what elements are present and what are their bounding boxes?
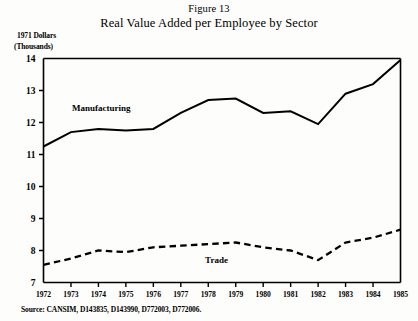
x-tick-label: 1975 <box>118 290 133 299</box>
x-tick-label: 1979 <box>228 290 243 299</box>
y-tick-label: 13 <box>26 86 36 96</box>
y-axis-ticks: 1413121110987 <box>26 54 44 288</box>
figure-container: Figure 13 Real Value Added per Employee … <box>0 0 418 321</box>
series-labels-group: ManufacturingTrade <box>72 103 228 264</box>
y-tick-label: 14 <box>26 54 36 64</box>
x-tick-label: 1973 <box>63 290 78 299</box>
x-tick-label: 1982 <box>311 290 326 299</box>
x-tick-label: 1983 <box>338 290 353 299</box>
y-tick-label: 12 <box>26 118 36 128</box>
x-tick-label: 1984 <box>365 290 380 299</box>
x-tick-label: 1978 <box>201 290 216 299</box>
line-chart-plot: 1413121110987 19721973197419751976197719… <box>0 0 418 321</box>
y-tick-label: 11 <box>27 150 36 160</box>
chart-axes <box>44 59 401 283</box>
x-tick-label: 1974 <box>91 290 106 299</box>
x-tick-label: 1981 <box>283 290 298 299</box>
y-tick-label: 7 <box>31 278 36 288</box>
series-label-manufacturing: Manufacturing <box>72 103 131 113</box>
x-tick-label: 1972 <box>36 290 51 299</box>
source-note: Source: CANSIM, D143835, D143990, D77200… <box>21 305 201 314</box>
y-tick-label: 9 <box>31 214 36 224</box>
x-tick-label: 1977 <box>173 290 188 299</box>
x-axis-ticks: 1972197319741975197619771978197919801981… <box>36 283 408 300</box>
y-tick-label: 8 <box>31 246 36 256</box>
x-tick-label: 1976 <box>146 290 161 299</box>
x-tick-label: 1985 <box>393 290 408 299</box>
data-series-group <box>44 60 401 265</box>
y-tick-label: 10 <box>26 182 36 192</box>
series-label-trade: Trade <box>205 255 228 265</box>
x-tick-label: 1980 <box>256 290 271 299</box>
